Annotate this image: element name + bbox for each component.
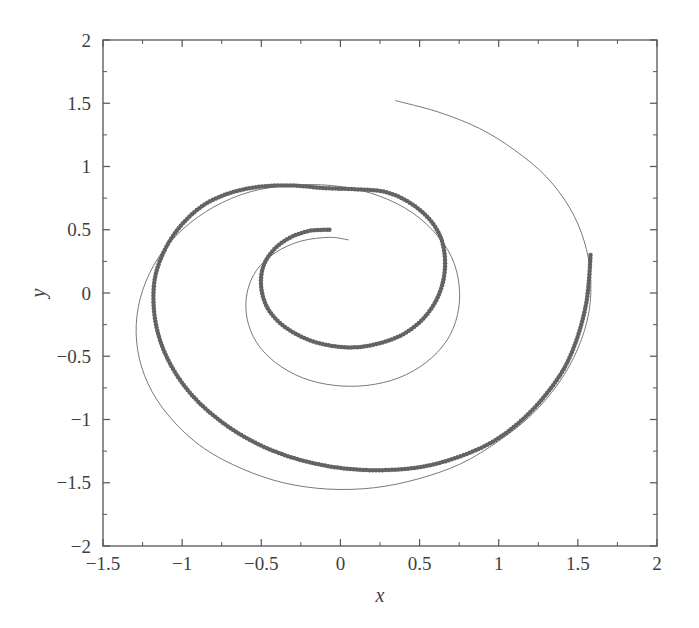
y-tick-label: 1 <box>82 156 92 177</box>
y-tick-label: −1 <box>71 409 91 430</box>
y-tick-label: 0 <box>82 283 92 304</box>
spiral-scatter-chart: −1.5−1−0.500.511.52 −2−1.5−1−0.500.511.5… <box>0 0 699 628</box>
y-tick-label: 0.5 <box>67 219 91 240</box>
x-tick-label: 0.5 <box>408 553 432 574</box>
x-tick-label: −0.5 <box>244 553 278 574</box>
y-tick-label: −2 <box>71 536 91 557</box>
x-tick-label: 0 <box>336 553 346 574</box>
y-tick-label: −0.5 <box>57 346 91 367</box>
y-tick-label: −1.5 <box>57 472 91 493</box>
y-tick-label: 2 <box>82 30 92 51</box>
x-tick-label: −1 <box>172 553 192 574</box>
y-tick-label: 1.5 <box>67 93 91 114</box>
x-tick-label: 1 <box>494 553 504 574</box>
x-tick-label: 2 <box>652 553 662 574</box>
x-tick-label: 1.5 <box>566 553 590 574</box>
y-axis-title: y <box>27 288 50 299</box>
x-axis-title: x <box>375 584 385 606</box>
chart-background <box>0 0 699 628</box>
data-point-marker <box>327 228 332 233</box>
figure-container: −1.5−1−0.500.511.52 −2−1.5−1−0.500.511.5… <box>0 0 699 628</box>
